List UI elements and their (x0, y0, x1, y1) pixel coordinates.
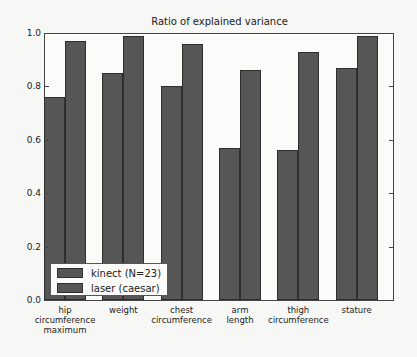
y-tick-label: 0.6 (27, 135, 41, 145)
y-tick-mark (389, 140, 393, 141)
x-tick-label: arm length (226, 305, 253, 325)
bar-kinect (277, 150, 298, 300)
legend-item-kinect: kinect (N=23) (57, 267, 161, 279)
y-tick-mark (389, 193, 393, 194)
y-tick-mark (389, 247, 393, 248)
legend-swatch-laser (57, 283, 83, 293)
x-tick-label: thigh circumference (268, 305, 329, 325)
legend-label-laser: laser (caesar) (91, 283, 160, 294)
chart-title: Ratio of explained variance (44, 16, 395, 27)
y-tick-mark (45, 193, 49, 194)
bar-kinect (336, 68, 357, 300)
x-tick-label: stature (342, 305, 372, 315)
bar-laser (65, 41, 86, 300)
x-tick-label: hip circumference maximum (35, 305, 96, 335)
legend-item-laser: laser (caesar) (57, 282, 160, 294)
y-tick-mark (45, 300, 49, 301)
plot-area (44, 33, 394, 301)
bar-kinect (219, 148, 240, 300)
legend: kinect (N=23) laser (caesar) (50, 263, 168, 296)
y-tick-mark (389, 33, 393, 34)
y-tick-label: 0.8 (27, 81, 41, 91)
y-tick-label: 0.4 (27, 188, 41, 198)
bar-laser (123, 36, 144, 300)
y-tick-label: 0.2 (27, 242, 41, 252)
y-tick-mark (45, 33, 49, 34)
y-tick-label: 1.0 (27, 28, 41, 38)
bar-laser (182, 44, 203, 300)
y-tick-mark (45, 247, 49, 248)
bar-laser (298, 52, 319, 300)
legend-label-kinect: kinect (N=23) (91, 268, 161, 279)
x-tick-label: weight (109, 305, 138, 315)
x-tick-label: chest circumference (151, 305, 212, 325)
y-tick-mark (45, 86, 49, 87)
y-tick-mark (389, 300, 393, 301)
bar-laser (240, 70, 261, 300)
legend-swatch-kinect (57, 268, 83, 278)
y-tick-mark (389, 86, 393, 87)
bar-laser (357, 36, 378, 300)
y-tick-label: 0.0 (27, 295, 41, 305)
y-tick-mark (45, 140, 49, 141)
